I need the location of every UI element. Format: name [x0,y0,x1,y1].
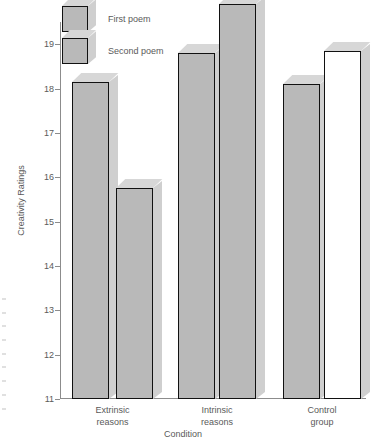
bar-front-face [72,82,109,399]
x-category-label-line: Extrinsic [58,404,168,416]
bar-front-face [324,51,361,399]
x-category-label-line: reasons [162,416,272,428]
bar-front-face [116,188,153,399]
scan-artifact-mark [2,298,6,300]
scan-artifact-mark [2,325,6,327]
scan-edge-artifacts [0,298,10,418]
x-category-label-0: Extrinsicreasons [58,404,168,428]
scan-artifact-mark [2,366,6,368]
bar-side-face [153,181,162,399]
x-category-label-line: Control [267,404,375,416]
bar-2-0 [283,84,320,399]
scan-artifact-mark [2,380,6,382]
bar-front-face [283,84,320,399]
scan-artifact-mark [2,353,6,355]
bar-side-face [361,44,370,399]
bar-side-face [256,0,265,399]
bar-0-1 [116,188,153,399]
y-tick-mark [55,399,60,400]
bar-front-face [219,4,256,399]
bar-1-0 [178,53,215,399]
scan-artifact-mark [2,312,6,314]
x-category-label-line: reasons [58,416,168,428]
bar-front-face [178,53,215,399]
x-axis-title: Condition [128,430,238,439]
x-category-label-line: Intrinsic [162,404,272,416]
x-category-label-1: Intrinsicreasons [162,404,272,428]
scan-artifact-mark [2,408,6,410]
bar-1-1 [219,4,256,399]
scan-artifact-mark [2,394,6,396]
bar-0-0 [72,82,109,399]
x-category-label-line: group [267,416,375,428]
bar-2-1 [324,51,361,399]
x-category-label-2: Controlgroup [267,404,375,428]
plot-area [0,0,366,399]
scan-artifact-mark [2,339,6,341]
